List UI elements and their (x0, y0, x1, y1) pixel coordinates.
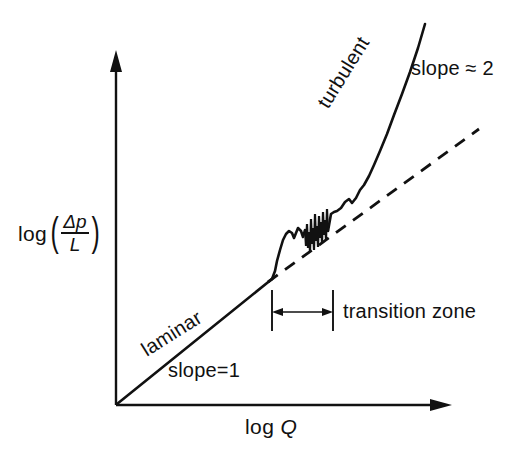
y-axis-label-numerator: Δp (61, 212, 88, 232)
y-axis-arrowhead (110, 50, 122, 72)
x-axis-arrowhead (430, 399, 452, 411)
turbulent-slope-label: slope ≈ 2 (411, 58, 494, 78)
laminar-slope-label: slope=1 (168, 360, 240, 380)
y-axis-label-open-paren: ( (50, 216, 58, 250)
y-axis-label-fraction: Δp L (61, 212, 88, 254)
y-axis-label-close-paren: ) (91, 216, 99, 250)
transition-turbulent-curve (272, 228, 305, 279)
y-axis-label-log: log (18, 223, 47, 244)
transition-zone-label: transition zone (343, 301, 476, 321)
x-axis-label-variable: Q (280, 415, 297, 438)
transition-arrow-head-right (322, 308, 333, 316)
y-axis-label: log ( Δp L ) (18, 212, 102, 254)
y-axis-label-denominator: L (68, 234, 83, 254)
transition-noise-spikes (305, 209, 328, 252)
x-axis-label: log Q (245, 416, 297, 437)
x-axis-label-log: log (245, 415, 274, 438)
laminar-extrapolation-dashed-line (268, 129, 479, 282)
figure-container: log ( Δp L ) log Q turbulent slope ≈ 2 l… (0, 0, 518, 456)
transition-arrow-head-left (272, 308, 283, 316)
